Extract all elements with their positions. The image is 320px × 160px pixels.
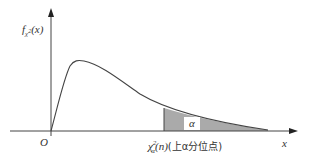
origin-label: O (40, 137, 48, 148)
y-axis-arrow-icon (48, 8, 54, 17)
density-curve (51, 61, 268, 131)
x-axis-label: x (282, 138, 287, 149)
y-axis-label: fχ2(x) (22, 24, 43, 38)
x-axis-arrow-icon (289, 128, 298, 134)
quantile-note: (上α分位点) (168, 141, 222, 152)
quantile-label: χ2α(n)(上α分位点) (148, 140, 222, 155)
alpha-region-label: α (184, 117, 200, 130)
